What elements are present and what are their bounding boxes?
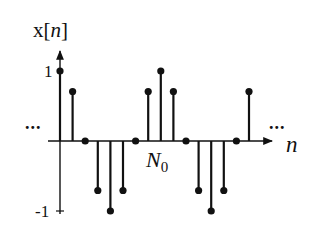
- stem-marker: [182, 137, 189, 144]
- stem-marker: [94, 187, 101, 194]
- stem-marker: [145, 88, 152, 95]
- stem-marker: [119, 187, 126, 194]
- stem-marker: [170, 88, 177, 95]
- stem-marker: [233, 137, 240, 144]
- x-axis-label: n: [286, 133, 298, 156]
- stem-marker: [208, 207, 215, 214]
- stem-marker: [220, 187, 227, 194]
- stem-marker: [245, 88, 252, 95]
- period-label: N0: [146, 149, 168, 175]
- stem-marker: [107, 207, 114, 214]
- y-tick-label-neg-one: -1: [35, 203, 49, 220]
- stem-marker: [195, 187, 202, 194]
- stem-marker: [56, 67, 63, 74]
- stem-marker: [82, 137, 89, 144]
- left-ellipsis: ...: [25, 114, 42, 132]
- y-axis-label: x[n]: [33, 20, 68, 41]
- stem-marker: [69, 88, 76, 95]
- stem-marker: [132, 137, 139, 144]
- y-tick-label-one: 1: [44, 63, 53, 80]
- right-ellipsis: ...: [269, 114, 286, 132]
- stem-marker: [157, 67, 164, 74]
